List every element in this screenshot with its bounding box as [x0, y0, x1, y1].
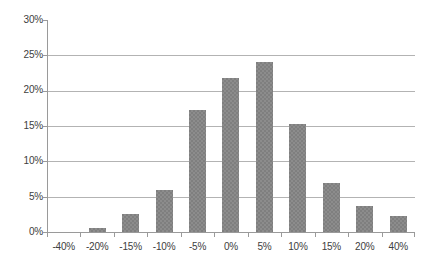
y-tick-label: 30% [3, 15, 43, 25]
bar-slot [47, 20, 80, 232]
x-tick-label: 10% [281, 241, 314, 253]
y-tick-label: 10% [3, 156, 43, 166]
bar-slot [248, 20, 281, 232]
bar[interactable] [122, 214, 139, 232]
x-tick-mark [248, 232, 281, 237]
y-tick-label: 20% [3, 85, 43, 95]
x-tick-mark [114, 232, 147, 237]
bar-slot [281, 20, 314, 232]
x-tick-label: -20% [80, 241, 113, 253]
bar[interactable] [222, 78, 239, 232]
bar-slot [114, 20, 147, 232]
x-tick-label: -40% [47, 241, 80, 253]
bar-slot [181, 20, 214, 232]
x-tick-mark [47, 232, 80, 237]
x-tick-mark [80, 232, 113, 237]
x-tick-label: 15% [315, 241, 348, 253]
bar[interactable] [390, 216, 407, 232]
x-tick-label: 20% [348, 241, 381, 253]
bar[interactable] [189, 110, 206, 232]
x-tick-mark [147, 232, 180, 237]
x-axis-labels: -40% -20% -15% -10% -5% 0% 5% 10% 15% 20… [47, 241, 415, 253]
y-tick-label: 15% [3, 121, 43, 131]
x-tick-mark [348, 232, 381, 237]
x-tick-mark [281, 232, 314, 237]
y-tick-label: 25% [3, 50, 43, 60]
bar[interactable] [156, 190, 173, 232]
x-tick-label: 40% [382, 241, 415, 253]
x-tick-mark [315, 232, 348, 237]
y-axis-labels: 30% 25% 20% 15% 10% 5% 0% [0, 0, 43, 268]
bar-slot [80, 20, 113, 232]
bar-slot [315, 20, 348, 232]
x-tick-mark [214, 232, 247, 237]
x-tick-label: -10% [147, 241, 180, 253]
x-tick-label: -5% [181, 241, 214, 253]
bar-slot [147, 20, 180, 232]
x-tick-label: 0% [214, 241, 247, 253]
bar[interactable] [256, 62, 273, 232]
y-tick-label: 5% [3, 192, 43, 202]
bar-slot [348, 20, 381, 232]
x-tick-mark [181, 232, 214, 237]
bar[interactable] [289, 124, 306, 232]
x-tick-label: 5% [248, 241, 281, 253]
x-axis-ticks [47, 232, 415, 237]
x-tick-label: -15% [114, 241, 147, 253]
bar[interactable] [356, 206, 373, 232]
bar-slot [382, 20, 415, 232]
bars-container [47, 20, 415, 232]
bar-chart: 30% 25% 20% 15% 10% 5% 0% [0, 0, 425, 268]
bar[interactable] [323, 183, 340, 232]
y-tick-label: 0% [3, 227, 43, 237]
x-tick-mark [382, 232, 415, 237]
bar-slot [214, 20, 247, 232]
